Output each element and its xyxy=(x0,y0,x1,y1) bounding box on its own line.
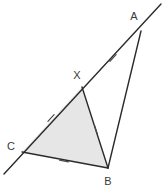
vertex-label-B: B xyxy=(104,175,111,187)
geometry-figure-container: A X C B xyxy=(0,0,162,191)
geometry-diagram: A X C B xyxy=(0,0,162,191)
vertex-label-A: A xyxy=(130,10,138,22)
segment-AB xyxy=(108,31,141,168)
vertex-label-C: C xyxy=(7,140,15,152)
vertex-label-X: X xyxy=(73,69,81,81)
